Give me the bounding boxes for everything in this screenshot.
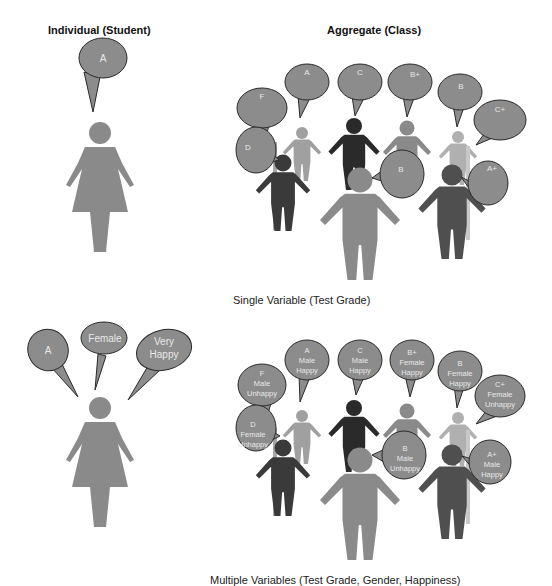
multiple-variables-caption: Multiple Variables (Test Grade, Gender, … (210, 574, 460, 586)
svg-text:Happy: Happy (296, 366, 318, 375)
svg-text:Male: Male (299, 356, 315, 365)
svg-text:D: D (250, 420, 256, 429)
svg-text:Happy: Happy (449, 379, 471, 388)
svg-text:Happy: Happy (349, 366, 371, 375)
individual-single-bubble: A (79, 38, 127, 112)
svg-text:A: A (304, 346, 309, 355)
grade-label: A (100, 53, 107, 64)
svg-text:A: A (45, 345, 52, 356)
svg-text:B+: B+ (410, 70, 420, 79)
svg-text:Happy: Happy (481, 470, 503, 479)
svg-text:Male: Male (484, 460, 500, 469)
svg-text:Unhappy: Unhappy (485, 400, 515, 409)
svg-text:B: B (458, 82, 463, 91)
svg-text:B: B (398, 165, 403, 174)
student-figure-multi (66, 397, 134, 527)
svg-text:Male: Male (352, 356, 368, 365)
svg-text:Female: Female (487, 390, 512, 399)
svg-text:F: F (260, 92, 265, 101)
svg-text:Female: Female (447, 369, 472, 378)
student-figure (66, 122, 134, 252)
svg-text:B: B (457, 359, 462, 368)
svg-text:Unhappy: Unhappy (390, 464, 420, 473)
single-variable-caption: Single Variable (Test Grade) (233, 294, 370, 306)
svg-text:A+: A+ (487, 164, 497, 173)
svg-text:Happy: Happy (150, 349, 179, 360)
svg-text:A: A (304, 68, 310, 77)
class-figures-top (256, 118, 486, 280)
svg-text:F: F (260, 369, 265, 378)
class-figures-bottom (256, 400, 486, 560)
svg-text:B: B (402, 444, 407, 453)
svg-text:D: D (245, 143, 251, 152)
svg-text:B+: B+ (407, 348, 417, 357)
svg-text:A+: A+ (487, 450, 497, 459)
svg-text:Female: Female (240, 430, 265, 439)
svg-text:Unhappy: Unhappy (238, 440, 268, 449)
svg-text:Very: Very (154, 336, 174, 347)
svg-text:C: C (357, 346, 363, 355)
svg-text:Female: Female (88, 333, 122, 344)
svg-text:Female: Female (399, 358, 424, 367)
svg-text:Male: Male (254, 379, 270, 388)
svg-text:C+: C+ (495, 380, 505, 389)
svg-text:C+: C+ (495, 105, 506, 114)
svg-text:Male: Male (397, 454, 413, 463)
svg-text:Happy: Happy (401, 368, 423, 377)
svg-text:C: C (357, 68, 363, 77)
svg-text:Unhappy: Unhappy (247, 389, 277, 398)
